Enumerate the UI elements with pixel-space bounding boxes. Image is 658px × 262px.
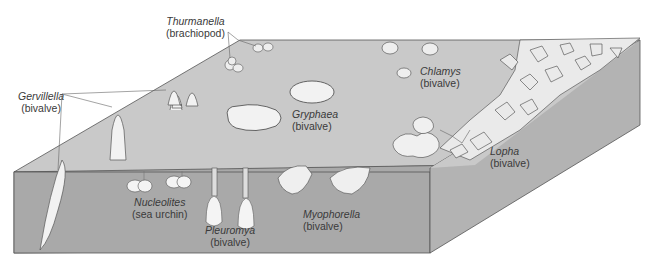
label-type: (bivalve): [303, 220, 360, 232]
label-type: (bivalve): [18, 102, 64, 114]
label-genus: Gryphaea: [292, 108, 338, 120]
label-genus: Thurmanella: [166, 15, 225, 27]
label-myophorella: Myophorella (bivalve): [303, 208, 360, 232]
label-nucleolites: Nucleolites (sea urchin): [132, 196, 187, 220]
label-lopha: Lopha (bivalve): [490, 145, 530, 169]
label-type: (sea urchin): [132, 208, 187, 220]
label-genus: Chlamys: [420, 65, 461, 77]
label-genus: Nucleolites: [132, 196, 187, 208]
label-genus: Pleuromya: [205, 224, 255, 236]
label-gryphaea: Gryphaea (bivalve): [292, 108, 338, 132]
label-gervillella: Gervillella (bivalve): [18, 90, 64, 114]
label-type: (bivalve): [420, 77, 461, 89]
label-type: (bivalve): [205, 236, 255, 248]
label-thurmanella: Thurmanella (brachiopod): [166, 15, 225, 39]
label-pleuromya: Pleuromya (bivalve): [205, 224, 255, 248]
label-genus: Lopha: [490, 145, 530, 157]
label-chlamys: Chlamys (bivalve): [420, 65, 461, 89]
label-genus: Myophorella: [303, 208, 360, 220]
label-type: (bivalve): [292, 120, 338, 132]
label-type: (bivalve): [490, 157, 530, 169]
diagram-canvas: Thurmanella (brachiopod) Gervillella (bi…: [0, 0, 658, 262]
label-genus: Gervillella: [18, 90, 64, 102]
label-type: (brachiopod): [166, 27, 225, 39]
